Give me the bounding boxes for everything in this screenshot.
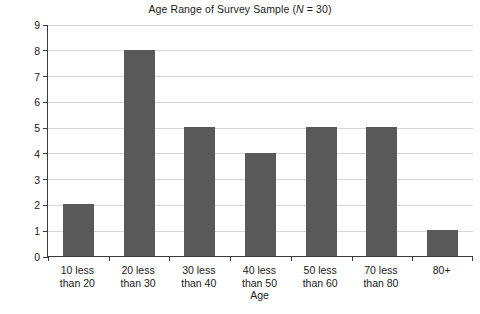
y-axis-tick-label: 7	[20, 72, 40, 83]
chart-title: Age Range of Survey Sample (N = 30)	[0, 3, 480, 15]
x-axis-tick-mark	[48, 256, 49, 261]
y-axis-tick-mark	[43, 25, 48, 26]
bar[interactable]	[184, 127, 215, 256]
x-axis-category-label: 30 less than 40	[168, 264, 229, 289]
x-axis-category-label: 50 less than 60	[290, 264, 351, 289]
y-axis-tick-mark	[43, 50, 48, 51]
x-axis-category-label: 80+	[411, 264, 472, 277]
chart-title-italic-n: N	[296, 3, 304, 15]
x-axis-category-label: 40 less than 50	[229, 264, 290, 289]
plot-area: 0123456789	[47, 25, 472, 257]
gridline	[48, 50, 473, 51]
y-axis-tick-label: 4	[20, 149, 40, 160]
y-axis-tick-label: 8	[20, 46, 40, 57]
x-axis-tick-mark	[472, 256, 473, 261]
bar[interactable]	[63, 204, 94, 256]
y-axis-tick-mark	[43, 205, 48, 206]
y-axis-tick-label: 6	[20, 97, 40, 108]
bar-chart: Age Range of Survey Sample (N = 30) Numb…	[0, 0, 480, 314]
y-axis-tick-label: 3	[20, 175, 40, 186]
bar[interactable]	[306, 127, 337, 256]
gridline	[48, 76, 473, 77]
bar[interactable]	[124, 50, 155, 256]
x-axis-tick-mark	[109, 256, 110, 261]
x-axis-tick-mark	[291, 256, 292, 261]
y-axis-tick-label: 2	[20, 200, 40, 211]
y-axis-tick-mark	[43, 231, 48, 232]
bar[interactable]	[366, 127, 397, 256]
y-axis-tick-mark	[43, 179, 48, 180]
x-axis-category-label: 20 less than 30	[108, 264, 169, 289]
y-axis-tick-mark	[43, 76, 48, 77]
gridline	[48, 128, 473, 129]
y-axis-tick-mark	[43, 128, 48, 129]
x-axis-tick-mark	[169, 256, 170, 261]
y-axis-tick-mark	[43, 102, 48, 103]
chart-title-prefix: Age Range of Survey Sample (	[149, 3, 297, 15]
x-axis-category-label: 10 less than 20	[47, 264, 108, 289]
chart-title-suffix: = 30)	[304, 3, 332, 15]
gridline	[48, 25, 473, 26]
y-axis-tick-label: 5	[20, 123, 40, 134]
y-axis-tick-label: 9	[20, 20, 40, 31]
bar[interactable]	[245, 153, 276, 256]
y-axis-tick-label: 0	[20, 252, 40, 263]
gridline	[48, 102, 473, 103]
bar[interactable]	[427, 230, 458, 256]
x-axis-title: Age	[47, 289, 472, 301]
y-axis-tick-mark	[43, 153, 48, 154]
y-axis-tick-label: 1	[20, 226, 40, 237]
x-axis-tick-mark	[230, 256, 231, 261]
x-axis-category-label: 70 less than 80	[351, 264, 412, 289]
x-axis-tick-mark	[412, 256, 413, 261]
x-axis-tick-mark	[352, 256, 353, 261]
